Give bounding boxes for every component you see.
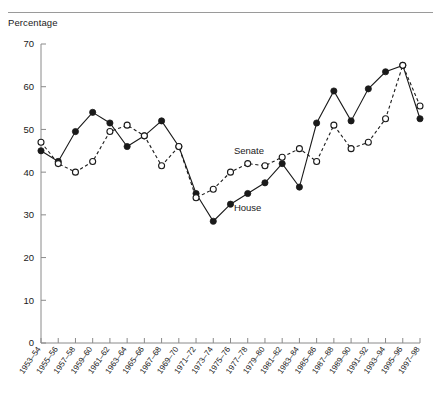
data-point-senate: [314, 158, 320, 164]
data-point-senate: [193, 195, 199, 201]
data-point-house: [227, 201, 233, 207]
y-tick-label: 50: [23, 124, 34, 135]
chart-figure: Percentage 010203040506070 1953–541955–5…: [0, 0, 441, 396]
data-point-senate: [279, 154, 285, 160]
line-chart-plot: 010203040506070 1953–541955–561957–58195…: [0, 0, 441, 396]
data-point-senate: [296, 146, 302, 152]
data-point-house: [417, 116, 423, 122]
data-point-senate: [55, 161, 61, 167]
data-point-senate: [365, 139, 371, 145]
data-point-senate: [331, 122, 337, 128]
data-point-senate: [72, 169, 78, 175]
data-point-senate: [262, 163, 268, 169]
data-point-house: [210, 218, 216, 224]
y-tick-label: 40: [23, 167, 34, 178]
data-point-senate: [38, 139, 44, 145]
data-point-house: [90, 109, 96, 115]
series-line-senate: [41, 65, 420, 197]
y-tick-label: 60: [23, 81, 34, 92]
series-line-house: [41, 65, 420, 221]
data-point-senate: [141, 133, 147, 139]
data-point-senate: [159, 163, 165, 169]
y-tick-label: 10: [23, 295, 34, 306]
data-point-senate: [400, 62, 406, 68]
y-tick-label: 20: [23, 252, 34, 263]
data-point-house: [382, 69, 388, 75]
data-point-house: [124, 143, 130, 149]
data-point-house: [279, 161, 285, 167]
data-point-house: [245, 190, 251, 196]
data-point-senate: [417, 103, 423, 109]
series-label-senate: Senate: [234, 145, 264, 156]
data-point-senate: [176, 144, 182, 150]
data-point-senate: [210, 186, 216, 192]
data-point-senate: [228, 169, 234, 175]
data-point-house: [348, 118, 354, 124]
data-point-senate: [348, 146, 354, 152]
data-point-house: [107, 120, 113, 126]
data-point-house: [296, 184, 302, 190]
y-tick-label: 30: [23, 209, 34, 220]
data-series-group: [38, 62, 423, 224]
data-point-senate: [124, 122, 130, 128]
data-point-house: [158, 118, 164, 124]
series-annotations: SenateHouse: [234, 145, 264, 212]
data-point-house: [262, 180, 268, 186]
x-axis: 1953–541955–561957–581959–601961–621963–…: [17, 338, 422, 376]
data-point-house: [331, 88, 337, 94]
data-point-senate: [383, 116, 389, 122]
data-point-senate: [245, 161, 251, 167]
y-axis: 010203040506070: [23, 38, 46, 348]
data-point-senate: [90, 158, 96, 164]
data-point-house: [314, 120, 320, 126]
data-point-senate: [107, 129, 113, 135]
series-label-house: House: [234, 202, 261, 213]
data-point-house: [38, 148, 44, 154]
y-tick-label: 70: [23, 38, 34, 49]
data-point-house: [72, 128, 78, 134]
data-point-house: [365, 86, 371, 92]
